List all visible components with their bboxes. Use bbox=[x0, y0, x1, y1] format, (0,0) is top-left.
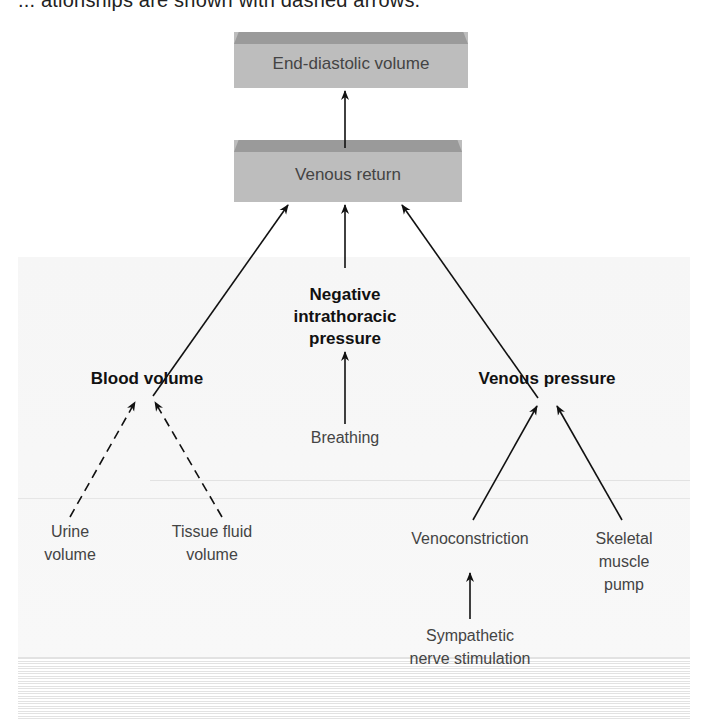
breathing-label: Breathing bbox=[265, 426, 425, 449]
label-line: intrathoracic bbox=[245, 306, 445, 328]
label-line: Tissue fluid bbox=[152, 520, 272, 543]
skeletal-muscle-pump-label: Skeletal muscle pump bbox=[574, 527, 674, 596]
urine-volume-label: Urine volume bbox=[20, 520, 120, 566]
label-line: Urine bbox=[20, 520, 120, 543]
arrow-layer bbox=[0, 0, 705, 719]
label-line: volume bbox=[20, 543, 120, 566]
tissue-fluid-volume-label: Tissue fluid volume bbox=[152, 520, 272, 566]
blood-volume-label: Blood volume bbox=[47, 368, 247, 390]
negative-intrathoracic-pressure-label: Negative intrathoracic pressure bbox=[245, 284, 445, 350]
label-line: pressure bbox=[245, 328, 445, 350]
label-line: Skeletal bbox=[574, 527, 674, 550]
arrow-venoconstriction-to-venous-pressure bbox=[473, 406, 537, 520]
arrow-skeletal-pump-to-venous-pressure bbox=[557, 406, 622, 520]
dashed-arrow-urine-to-blood-volume bbox=[70, 402, 135, 517]
label-line: volume bbox=[152, 543, 272, 566]
venous-pressure-label: Venous pressure bbox=[447, 368, 647, 390]
label-line: nerve stimulation bbox=[380, 647, 560, 670]
venoconstriction-label: Venoconstriction bbox=[390, 527, 550, 550]
label-line: muscle bbox=[574, 550, 674, 573]
sympathetic-nerve-stimulation-label: Sympathetic nerve stimulation bbox=[380, 624, 560, 670]
label-line: Sympathetic bbox=[380, 624, 560, 647]
label-line: pump bbox=[574, 573, 674, 596]
dashed-arrow-tissue-fluid-to-blood-volume bbox=[155, 402, 222, 517]
label-line: Negative bbox=[245, 284, 445, 306]
